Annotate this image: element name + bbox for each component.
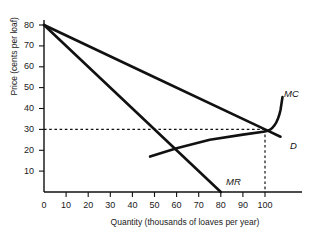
x-tick-label-20: 20 bbox=[78, 201, 98, 210]
marginal-cost-curve-label: MC bbox=[284, 89, 299, 99]
chart-figure: 80 70 60 50 40 30 20 10 0 10 20 30 40 50… bbox=[0, 0, 314, 237]
x-tick-marks bbox=[66, 192, 265, 197]
x-tick-label-40: 40 bbox=[122, 201, 142, 210]
y-tick-label-10: 10 bbox=[16, 167, 34, 176]
x-tick-label-0: 0 bbox=[34, 201, 54, 210]
y-tick-marks bbox=[39, 25, 44, 171]
marginal-revenue-curve-label: MR bbox=[226, 177, 241, 187]
x-tick-label-100: 100 bbox=[255, 201, 275, 210]
y-axis-title: Price (cents per loaf) bbox=[10, 10, 19, 102]
x-tick-label-60: 60 bbox=[167, 201, 187, 210]
y-tick-label-20: 20 bbox=[16, 146, 34, 155]
demand-curve bbox=[44, 25, 281, 137]
x-tick-label-90: 90 bbox=[233, 201, 253, 210]
x-tick-label-10: 10 bbox=[56, 201, 76, 210]
x-axis-title: Quantity (thousands of loaves per year) bbox=[60, 218, 310, 227]
x-tick-label-80: 80 bbox=[211, 201, 231, 210]
axes-group bbox=[44, 20, 302, 192]
x-tick-label-70: 70 bbox=[189, 201, 209, 210]
x-tick-label-50: 50 bbox=[145, 201, 165, 210]
y-tick-label-40: 40 bbox=[16, 104, 34, 113]
x-tick-label-30: 30 bbox=[100, 201, 120, 210]
marginal-revenue-curve bbox=[44, 25, 221, 192]
y-tick-label-30: 30 bbox=[16, 125, 34, 134]
demand-curve-label: D bbox=[290, 141, 297, 151]
